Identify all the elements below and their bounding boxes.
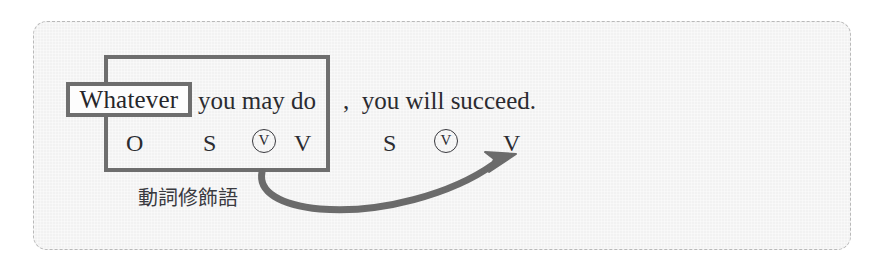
diagram-page: Whatever you may do , you will succeed. … (0, 0, 879, 270)
sentence-middle-text: you may do (198, 88, 316, 113)
role-label-main-subject: S (383, 131, 396, 155)
sentence-tail-text: , you will succeed. (343, 88, 536, 113)
role-label-clause-auxiliary-circled: V (252, 129, 276, 153)
role-label-main-verb: V (503, 131, 520, 155)
role-label-main-auxiliary-circled: V (434, 129, 458, 153)
highlighted-word-label: Whatever (80, 87, 179, 112)
role-label-object: O (126, 131, 143, 155)
role-label-clause-subject: S (203, 131, 216, 155)
japanese-annotation-label: 動詞修飾語 (138, 188, 238, 208)
highlighted-word-box: Whatever (66, 82, 192, 117)
role-label-clause-verb: V (294, 131, 311, 155)
